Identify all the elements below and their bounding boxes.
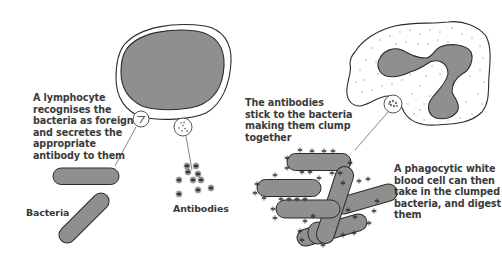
- clump-rod: [257, 180, 321, 197]
- antibody-cluster: [176, 163, 214, 198]
- phagocyte-membrane: [347, 22, 490, 126]
- clump-rod: [276, 200, 340, 218]
- bacterium-horizontal: [53, 168, 119, 185]
- phagocyte-cell: [347, 22, 490, 150]
- clump-caption: The antibodies stick to the bacteria mak…: [245, 97, 352, 143]
- lymphocyte-nucleus: [121, 30, 224, 110]
- lymphocyte-caption: A lymphocyte recognises the bacteria as …: [33, 92, 134, 162]
- pointer-line-to-clump: [355, 112, 388, 150]
- antibodies-label: Antibodies: [173, 203, 229, 215]
- engulfed-clump-detail-circle: [384, 95, 402, 113]
- bacteria-clump: [253, 147, 400, 248]
- secretion-detail-circle: [174, 118, 192, 136]
- bacteria-label: Bacteria: [26, 207, 69, 219]
- recognition-detail-circle: [133, 111, 149, 127]
- phagocyte-caption: A phagocytic white blood cell can then t…: [394, 163, 501, 221]
